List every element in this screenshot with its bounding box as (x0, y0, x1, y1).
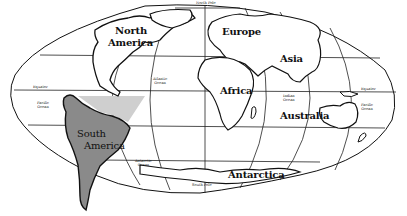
label-pacific-right-2: Ocean (361, 108, 373, 112)
label-europe: Europe (222, 27, 261, 37)
label-asia: Asia (280, 54, 303, 64)
label-south-america-1: South (77, 129, 106, 139)
label-antarctic-2: Ocean (135, 164, 152, 168)
label-south-america-2: America (84, 141, 125, 151)
label-pacific-left: Pacific Ocean (37, 102, 49, 109)
label-australia: Australia (280, 111, 329, 121)
label-africa: Africa (220, 86, 252, 96)
madagascar-outline (251, 107, 256, 119)
label-antarctica: Antarctica (228, 170, 284, 180)
label-pacific-right: Pacific Ocean (361, 104, 373, 111)
label-north-america-1: North (115, 26, 147, 36)
label-indian: Indian Ocean (283, 95, 295, 102)
label-north-pole: North Pole (196, 2, 216, 6)
label-antarctic-ocean: Antarctic Ocean (135, 160, 152, 167)
label-south-pole: South Pole (192, 184, 212, 188)
label-equator-right: Equator (361, 88, 376, 92)
new-zealand-outline (358, 133, 366, 142)
label-equator-left: Equator (33, 86, 48, 90)
label-pacific-left-2: Ocean (37, 106, 49, 110)
label-north-america-2: America (108, 38, 153, 48)
label-indian-2: Ocean (283, 99, 295, 103)
label-atlantic: Atlantic Ocean (153, 78, 167, 85)
label-atlantic-2: Ocean (153, 82, 167, 86)
